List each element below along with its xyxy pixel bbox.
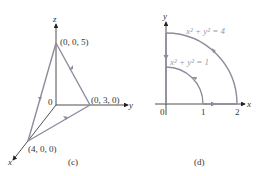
x-axis-label: x	[7, 157, 12, 167]
origin-label: 0	[48, 97, 53, 107]
path-edge	[28, 43, 56, 141]
y-axis-label: y	[128, 100, 133, 110]
point-label: (0, 0, 5)	[60, 37, 89, 47]
direction-arrow-icon	[164, 55, 169, 60]
origin-label: 0	[160, 107, 165, 117]
point-label: (4, 0, 0)	[28, 144, 57, 154]
direction-arrow-icon	[211, 102, 216, 107]
point-label: (0, 3, 0)	[91, 95, 120, 105]
inner-curve-equation: x² + y² = 1	[169, 57, 209, 67]
x-axis-label: x	[246, 99, 251, 109]
z-axis-label: z	[52, 14, 57, 24]
caption-c: (c)	[68, 157, 78, 167]
path-edge	[56, 43, 90, 105]
tick-label: 2	[235, 107, 240, 117]
figure-c: z y x 0 (0, 0, 5) (0, 3, 0) (4, 0, 0) (c…	[7, 14, 133, 167]
outer-curve-equation: x² + y² = 4	[185, 26, 226, 36]
figure-canvas: z y x 0 (0, 0, 5) (0, 3, 0) (4, 0, 0) (c…	[0, 0, 261, 176]
inner-arc	[166, 67, 203, 104]
tick-label: 1	[201, 107, 206, 117]
direction-arrow-icon	[38, 97, 42, 101]
caption-d: (d)	[194, 157, 205, 167]
y-axis-label: y	[162, 11, 167, 21]
figure-d: y x 0 1 2 x² + y² = 4 x² + y² = 1 (d)	[155, 11, 251, 167]
